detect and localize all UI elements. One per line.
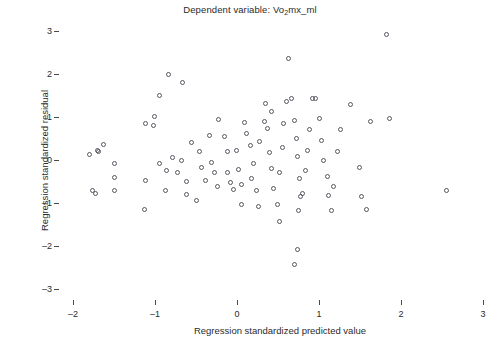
scatter-point: [180, 80, 185, 85]
scatter-point: [152, 114, 157, 119]
scatter-point: [143, 121, 148, 126]
scatter-point: [387, 116, 392, 121]
scatter-point: [269, 166, 274, 171]
scatter-point: [331, 184, 336, 189]
scatter-point: [112, 161, 117, 166]
scatter-point: [267, 150, 272, 155]
scatter-point: [164, 168, 169, 173]
scatter-point: [295, 247, 300, 252]
scatter-point: [207, 133, 212, 138]
scatter-point: [93, 191, 98, 196]
scatter-point: [179, 158, 184, 163]
scatter-point: [234, 148, 239, 153]
scatter-point: [335, 149, 340, 154]
scatter-point: [444, 188, 449, 193]
scatter-point: [280, 145, 285, 150]
scatter-point: [170, 155, 175, 160]
scatter-point: [166, 72, 171, 77]
scatter-point: [384, 32, 389, 37]
scatter-point: [175, 170, 180, 175]
scatter-point: [236, 167, 241, 172]
scatter-point: [305, 148, 310, 153]
scatter-point: [251, 161, 256, 166]
scatter-point: [265, 126, 270, 131]
data-points-layer: [0, 0, 500, 354]
scatter-point: [228, 180, 233, 185]
scatter-point: [151, 123, 156, 128]
scatter-point: [286, 56, 291, 61]
scatter-point: [319, 138, 324, 143]
scatter-point: [321, 158, 326, 163]
scatter-point: [96, 149, 101, 154]
scatter-point: [249, 176, 254, 181]
scatter-point: [284, 99, 289, 104]
scatter-plot-figure: Dependent variable: Vo2mx_ml Regression …: [0, 0, 500, 354]
scatter-point: [296, 208, 301, 213]
scatter-point: [197, 149, 202, 154]
scatter-point: [294, 136, 299, 141]
scatter-point: [300, 191, 305, 196]
scatter-point: [277, 170, 282, 175]
scatter-point: [289, 96, 294, 101]
scatter-point: [348, 102, 353, 107]
scatter-point: [297, 176, 302, 181]
scatter-point: [271, 186, 276, 191]
scatter-point: [184, 179, 189, 184]
scatter-point: [222, 134, 227, 139]
scatter-point: [329, 208, 334, 213]
scatter-point: [215, 184, 220, 189]
scatter-point: [163, 188, 168, 193]
scatter-point: [203, 178, 208, 183]
scatter-point: [244, 131, 249, 136]
scatter-point: [313, 96, 318, 101]
scatter-point: [209, 160, 214, 165]
scatter-point: [364, 207, 369, 212]
scatter-point: [157, 161, 162, 166]
scatter-point: [142, 207, 147, 212]
scatter-point: [101, 142, 106, 147]
scatter-point: [275, 202, 280, 207]
scatter-point: [239, 182, 244, 187]
scatter-point: [307, 127, 312, 132]
scatter-point: [263, 101, 268, 106]
scatter-point: [143, 178, 148, 183]
scatter-point: [239, 202, 244, 207]
scatter-point: [157, 93, 162, 98]
scatter-point: [368, 119, 373, 124]
scatter-point: [292, 118, 297, 123]
scatter-point: [189, 140, 194, 145]
scatter-point: [338, 127, 343, 132]
scatter-point: [194, 198, 199, 203]
scatter-point: [112, 188, 117, 193]
scatter-point: [303, 168, 308, 173]
scatter-point: [326, 193, 331, 198]
scatter-point: [184, 192, 189, 197]
scatter-point: [254, 188, 259, 193]
scatter-point: [87, 152, 92, 157]
scatter-point: [292, 262, 297, 267]
scatter-point: [256, 204, 261, 209]
scatter-point: [225, 149, 230, 154]
scatter-point: [216, 117, 221, 122]
scatter-point: [257, 139, 262, 144]
scatter-point: [357, 165, 362, 170]
scatter-point: [277, 219, 282, 224]
scatter-point: [112, 175, 117, 180]
scatter-point: [325, 174, 330, 179]
scatter-point: [262, 119, 267, 124]
scatter-point: [269, 109, 274, 114]
scatter-point: [281, 121, 286, 126]
scatter-point: [359, 194, 364, 199]
scatter-point: [225, 170, 230, 175]
scatter-point: [317, 116, 322, 121]
scatter-point: [248, 143, 253, 148]
scatter-point: [295, 154, 300, 159]
scatter-point: [212, 170, 217, 175]
scatter-point: [231, 187, 236, 192]
scatter-point: [199, 165, 204, 170]
scatter-point: [242, 120, 247, 125]
